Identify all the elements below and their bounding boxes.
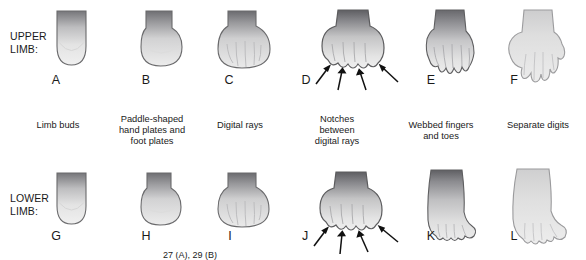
clipped-source-caption: 27 (A), 29 (B): [0, 252, 586, 260]
panel-letter-a: A: [48, 74, 64, 87]
clipped-source-caption-text: 27 (A), 29 (B): [163, 252, 217, 260]
limb-bud-shape-g: [52, 172, 98, 230]
notch-arrows-d: [316, 65, 398, 90]
panel-letter-f: F: [506, 74, 522, 87]
figure-panel-a: [52, 10, 98, 70]
panel-letter-d: D: [298, 74, 314, 87]
caption-e: Webbed fingers and toes: [391, 120, 491, 142]
panel-letter-k: K: [423, 230, 439, 243]
notched-rays-shape-j: [300, 170, 410, 254]
figure-panel-e: [419, 9, 481, 83]
paddle-plate-shape-b: [136, 10, 190, 72]
panel-letter-l: L: [506, 230, 522, 243]
figure-panel-i: [214, 172, 274, 232]
figure-panel-g: [52, 172, 98, 230]
row-label-lower-limb: LOWER LIMB:: [10, 192, 49, 217]
figure-panel-b: [136, 10, 190, 72]
figure-panel-h: [137, 172, 189, 230]
panel-letter-h: H: [138, 230, 154, 243]
caption-d: Notches between digital rays: [295, 114, 379, 147]
paddle-plate-shape-h: [137, 172, 189, 230]
panel-letter-g: G: [48, 230, 64, 243]
figure-panel-j: [300, 170, 410, 254]
caption-c: Digital rays: [203, 120, 277, 131]
figure-panel-c: [214, 10, 276, 74]
panel-letter-e: E: [423, 74, 439, 87]
caption-a: Limb buds: [20, 120, 96, 131]
panel-letter-b: B: [138, 74, 154, 87]
notched-rays-shape-d: [302, 8, 412, 90]
digital-rays-shape-i: [214, 172, 274, 232]
figure-canvas: UPPER LIMB: LOWER LIMB:: [0, 0, 586, 260]
figure-panel-d: [302, 8, 412, 90]
webbed-hand-shape-e: [419, 9, 481, 83]
panel-letter-i: I: [222, 230, 238, 243]
row-label-upper-limb: UPPER LIMB:: [10, 30, 47, 55]
panel-letter-c: C: [221, 74, 237, 87]
digital-rays-shape-c: [214, 10, 276, 74]
caption-b: Paddle-shaped hand plates and foot plate…: [106, 114, 198, 147]
caption-f: Separate digits: [492, 120, 584, 131]
notch-arrows-j: [314, 226, 398, 254]
limb-bud-shape-a: [52, 10, 98, 70]
panel-letter-j: J: [297, 230, 313, 243]
